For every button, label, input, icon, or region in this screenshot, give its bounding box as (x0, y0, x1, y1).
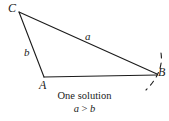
caption-one-solution: One solution (0, 91, 169, 102)
caption-inequality-rhs: b (90, 103, 95, 114)
side-label-a: a (85, 31, 91, 42)
triangle-figure: C A B a b One solution a > b (0, 0, 169, 121)
side-c-base-line (44, 75, 157, 77)
caption-inequality: a > b (0, 104, 169, 115)
vertex-label-b: B (158, 66, 165, 78)
caption-inequality-operator: > (79, 103, 90, 114)
vertex-label-a: A (39, 79, 46, 91)
side-label-b: b (24, 47, 30, 58)
vertex-label-c: C (8, 2, 16, 14)
